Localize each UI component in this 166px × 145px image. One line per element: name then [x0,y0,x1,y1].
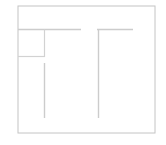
floor-plan-canvas: Floor plan wireframe thumbnail Faint lig… [0,0,166,145]
canvas-background [0,0,166,145]
floor-plan-drawing [0,0,166,145]
